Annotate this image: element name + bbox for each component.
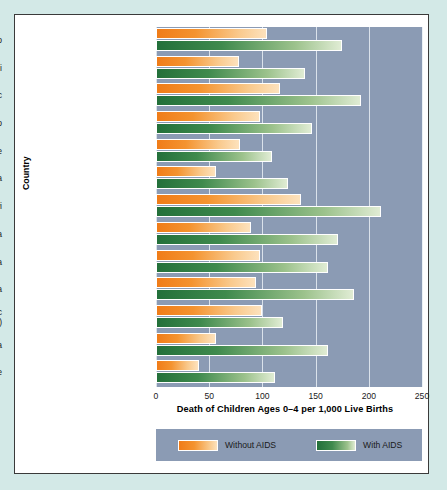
bar-with-aids bbox=[156, 345, 328, 356]
country-label: Burundi bbox=[0, 64, 2, 74]
bar-with-aids bbox=[156, 234, 338, 245]
bar-without-aids bbox=[156, 28, 267, 39]
legend-label-with-aids: With AIDS bbox=[363, 440, 402, 450]
bar-with-aids bbox=[156, 123, 312, 134]
country-label: Central African Republic bbox=[0, 91, 2, 101]
bar-without-aids bbox=[156, 305, 262, 316]
bar-with-aids bbox=[156, 95, 361, 106]
x-tick-label-100: 100 bbox=[255, 391, 269, 401]
bar-row: Democratic Republic of Congo (Zaire) bbox=[156, 305, 422, 333]
bar-with-aids bbox=[156, 317, 283, 328]
country-label: Tanzania bbox=[0, 258, 2, 268]
bar-row: Zambia bbox=[156, 333, 422, 361]
country-label: Zimbabwe bbox=[0, 368, 2, 378]
bar-row: Congo bbox=[156, 111, 422, 139]
country-label: Uganda bbox=[0, 285, 2, 295]
y-axis-title: Country bbox=[21, 156, 31, 190]
bar-row: Central African Republic bbox=[156, 83, 422, 111]
country-label: Democratic Republic of Congo (Zaire) bbox=[0, 308, 2, 327]
bar-without-aids bbox=[156, 222, 251, 233]
chart-legend: Without AIDS With AIDS bbox=[156, 429, 422, 461]
bar-row: Côte d'Ivoire bbox=[156, 139, 422, 167]
bar-row: Malawi bbox=[156, 194, 422, 222]
bar-with-aids bbox=[156, 178, 288, 189]
bar-without-aids bbox=[156, 277, 256, 288]
bar-row: Burkina Faso bbox=[156, 28, 422, 56]
x-tick-label-250: 250 bbox=[415, 391, 429, 401]
bar-without-aids bbox=[156, 56, 239, 67]
bar-with-aids bbox=[156, 40, 342, 51]
bar-row: Rwanda bbox=[156, 222, 422, 250]
x-tick-label-150: 150 bbox=[308, 391, 322, 401]
gridline-250 bbox=[422, 27, 423, 387]
bar-row: Tanzania bbox=[156, 250, 422, 278]
chart-panel: Country Burkina FasoBurundiCentral Afric… bbox=[14, 14, 429, 474]
bar-with-aids bbox=[156, 206, 381, 217]
bar-with-aids bbox=[156, 262, 328, 273]
country-label: Zambia bbox=[0, 341, 2, 351]
x-tick-label-200: 200 bbox=[362, 391, 376, 401]
x-tick-label-0: 0 bbox=[154, 391, 159, 401]
bar-without-aids bbox=[156, 111, 260, 122]
bar-row: Uganda bbox=[156, 277, 422, 305]
legend-swatch-with-aids bbox=[316, 440, 356, 451]
bar-without-aids bbox=[156, 250, 260, 261]
country-label: Malawi bbox=[0, 202, 2, 212]
country-label: Burkina Faso bbox=[0, 36, 2, 46]
country-label: Rwanda bbox=[0, 230, 2, 240]
bar-row: Burundi bbox=[156, 56, 422, 84]
legend-item-with-aids: With AIDS bbox=[316, 440, 402, 451]
bar-with-aids bbox=[156, 289, 354, 300]
country-label: Côte d'Ivoire bbox=[0, 147, 2, 157]
bar-row: Kenya bbox=[156, 166, 422, 194]
bar-without-aids bbox=[156, 166, 216, 177]
country-label: Congo bbox=[0, 119, 2, 129]
bar-with-aids bbox=[156, 372, 275, 383]
bar-without-aids bbox=[156, 333, 216, 344]
legend-item-without-aids: Without AIDS bbox=[178, 440, 276, 451]
legend-label-without-aids: Without AIDS bbox=[225, 440, 276, 450]
plot-area: Burkina FasoBurundiCentral African Repub… bbox=[156, 27, 422, 387]
bar-with-aids bbox=[156, 151, 272, 162]
x-tick-label-50: 50 bbox=[204, 391, 214, 401]
bar-without-aids bbox=[156, 83, 280, 94]
bar-without-aids bbox=[156, 139, 240, 150]
x-axis-ticks: 050100150200250 bbox=[156, 391, 422, 403]
bar-without-aids bbox=[156, 194, 301, 205]
x-axis-title: Death of Children Ages 0–4 per 1,000 Liv… bbox=[135, 404, 435, 414]
bar-without-aids bbox=[156, 360, 199, 371]
legend-swatch-without-aids bbox=[178, 440, 218, 451]
bar-row: Zimbabwe bbox=[156, 360, 422, 388]
country-label: Kenya bbox=[0, 174, 2, 184]
bar-with-aids bbox=[156, 68, 305, 79]
